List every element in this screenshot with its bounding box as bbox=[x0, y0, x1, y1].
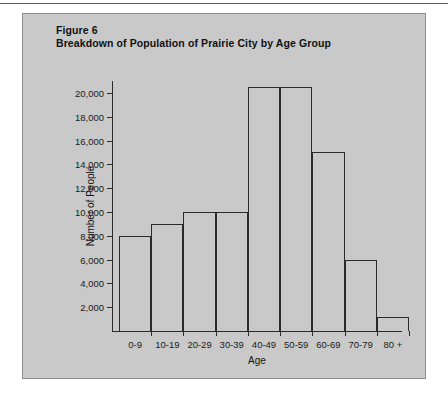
y-axis-line bbox=[112, 81, 113, 331]
y-axis-tick-label: 4,000 bbox=[80, 278, 104, 289]
chart-plot-area: 2,0004,0006,0008,00010,00012,00014,00016… bbox=[112, 81, 402, 331]
x-axis-tick-label: 40-49 bbox=[252, 339, 276, 350]
bar bbox=[280, 87, 312, 331]
page-top-rule bbox=[0, 3, 448, 4]
figure-title: Breakdown of Population of Prairie City … bbox=[56, 37, 406, 50]
x-axis-tick-label: 30-39 bbox=[220, 339, 244, 350]
figure-page: Figure 6 Breakdown of Population of Prai… bbox=[0, 0, 448, 398]
x-axis-tick-label: 70-79 bbox=[349, 339, 373, 350]
x-axis-tick bbox=[151, 331, 152, 336]
bar bbox=[248, 87, 280, 331]
x-axis-tick-label: 20-29 bbox=[187, 339, 211, 350]
y-axis-tick bbox=[107, 307, 112, 308]
bar bbox=[345, 260, 377, 331]
x-axis-tick bbox=[345, 331, 346, 336]
y-axis-tick-label: 2,000 bbox=[80, 302, 104, 313]
x-axis-tick-label: 10-19 bbox=[155, 339, 179, 350]
x-axis-tick bbox=[409, 331, 410, 336]
bar bbox=[151, 224, 183, 331]
y-axis-tick-label: 16,000 bbox=[75, 135, 104, 146]
x-axis-title: Age bbox=[112, 355, 402, 366]
y-axis-tick bbox=[107, 260, 112, 261]
figure-panel: Figure 6 Breakdown of Population of Prai… bbox=[22, 13, 426, 379]
y-axis-tick bbox=[107, 188, 112, 189]
bar bbox=[183, 212, 215, 331]
x-axis-tick bbox=[183, 331, 184, 336]
y-axis-tick bbox=[107, 236, 112, 237]
figure-caption: Figure 6 Breakdown of Population of Prai… bbox=[56, 24, 406, 50]
x-axis-line bbox=[112, 331, 402, 332]
y-axis-tick-label: 6,000 bbox=[80, 254, 104, 265]
x-axis-tick bbox=[248, 331, 249, 336]
y-axis-tick bbox=[107, 283, 112, 284]
bar bbox=[119, 236, 151, 331]
x-axis-tick-label: 80 + bbox=[383, 339, 402, 350]
bar bbox=[312, 152, 344, 331]
y-axis-tick bbox=[107, 93, 112, 94]
y-axis-tick bbox=[107, 117, 112, 118]
x-axis-tick bbox=[216, 331, 217, 336]
y-axis-tick bbox=[107, 141, 112, 142]
x-axis-tick-label: 60-69 bbox=[316, 339, 340, 350]
bar bbox=[377, 317, 409, 331]
x-axis-tick bbox=[280, 331, 281, 336]
y-axis-tick bbox=[107, 212, 112, 213]
y-axis-tick-label: 18,000 bbox=[75, 111, 104, 122]
x-axis-tick bbox=[377, 331, 378, 336]
x-axis-tick-label: 50-59 bbox=[284, 339, 308, 350]
y-axis-tick-label: 20,000 bbox=[75, 87, 104, 98]
x-axis-tick bbox=[312, 331, 313, 336]
figure-number: Figure 6 bbox=[56, 24, 406, 37]
bar bbox=[216, 212, 248, 331]
y-axis-tick bbox=[107, 164, 112, 165]
y-axis-title: Number of People bbox=[85, 166, 96, 247]
x-axis-tick-label: 0-9 bbox=[128, 339, 142, 350]
